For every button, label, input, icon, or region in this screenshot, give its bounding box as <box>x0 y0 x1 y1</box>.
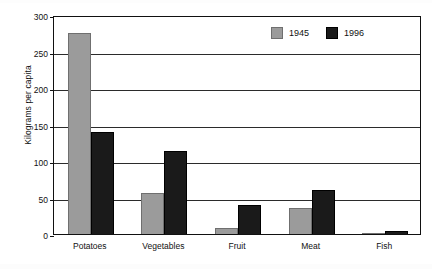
y-tick-label: 200 <box>34 85 48 95</box>
y-tick-label: 150 <box>34 122 48 132</box>
legend-label: 1996 <box>344 28 364 38</box>
bar-group <box>68 17 114 235</box>
bar <box>238 205 261 235</box>
bar-group <box>215 17 261 235</box>
y-tick-mark <box>50 200 54 201</box>
bar-group <box>141 17 187 235</box>
y-axis-title: Kilograms per capita <box>23 30 33 180</box>
y-tick-label: 0 <box>43 231 48 241</box>
bar-group <box>362 17 408 235</box>
legend-entry: 1945 <box>271 27 309 39</box>
scan-artifact <box>0 0 432 3</box>
y-tick-label: 100 <box>34 158 48 168</box>
y-tick-label: 50 <box>39 195 48 205</box>
plot-area: 050100150200250300 <box>53 16 421 235</box>
legend-swatch <box>326 27 338 39</box>
y-tick-label: 250 <box>34 49 48 59</box>
scan-artifact <box>0 264 432 269</box>
bar <box>141 193 164 235</box>
bar <box>312 190 335 235</box>
bar <box>164 151 187 235</box>
bar-chart-figure: Kilograms per capita 050100150200250300 … <box>0 0 432 269</box>
legend-swatch <box>271 27 283 39</box>
y-tick-mark <box>50 54 54 55</box>
bar-group <box>289 17 335 235</box>
bar <box>91 132 114 235</box>
y-tick-mark <box>50 90 54 91</box>
x-tick-label: Potatoes <box>73 241 107 251</box>
y-tick-mark <box>50 17 54 18</box>
chart-legend: 19451996 <box>271 27 364 39</box>
x-tick-label: Vegetables <box>142 241 184 251</box>
bar <box>68 33 91 235</box>
bar <box>289 208 312 235</box>
x-axis-line <box>53 234 421 235</box>
y-tick-mark <box>50 127 54 128</box>
x-tick-label: Meat <box>301 241 320 251</box>
y-tick-mark <box>50 163 54 164</box>
legend-entry: 1996 <box>326 27 364 39</box>
legend-label: 1945 <box>289 28 309 38</box>
y-tick-mark <box>50 236 54 237</box>
x-tick-label: Fruit <box>229 241 246 251</box>
x-tick-label: Fish <box>376 241 392 251</box>
y-tick-label: 300 <box>34 12 48 22</box>
